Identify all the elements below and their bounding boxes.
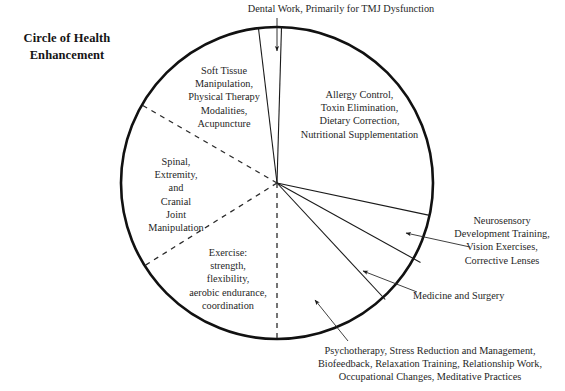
- divider-medicine-psychotherapy: [277, 183, 385, 300]
- leader-psychotherapy: [315, 300, 348, 341]
- wedge-label-spinal: Spinal, Extremity, and Cranial Joint Man…: [126, 155, 226, 234]
- wedge-label-allergy: Allergy Control, Toxin Elimination, Diet…: [287, 88, 432, 141]
- figure-title: Circle of Health Enhancement: [8, 30, 126, 63]
- callout-label-medicine: Medicine and Surgery: [413, 289, 558, 302]
- divider-allergy-neurosensory: [277, 183, 430, 215]
- callout-label-psychotherapy: Psychotherapy, Stress Reduction and Mana…: [297, 344, 563, 384]
- wedge-label-exercise: Exercise: strength, flexibility, aerobic…: [173, 246, 283, 312]
- divider-neurosensory-medicine2: [277, 183, 421, 263]
- figure-root: Circle of Health Enhancement Soft Tissue…: [0, 0, 565, 391]
- callout-label-dental: Dental Work, Primarily for TMJ Dysfuncti…: [216, 2, 466, 15]
- callout-label-neurosensory: Neurosensory Development Training, Visio…: [443, 214, 561, 267]
- wedge-label-soft-tissue: Soft Tissue Manipulation, Physical Thera…: [170, 64, 278, 130]
